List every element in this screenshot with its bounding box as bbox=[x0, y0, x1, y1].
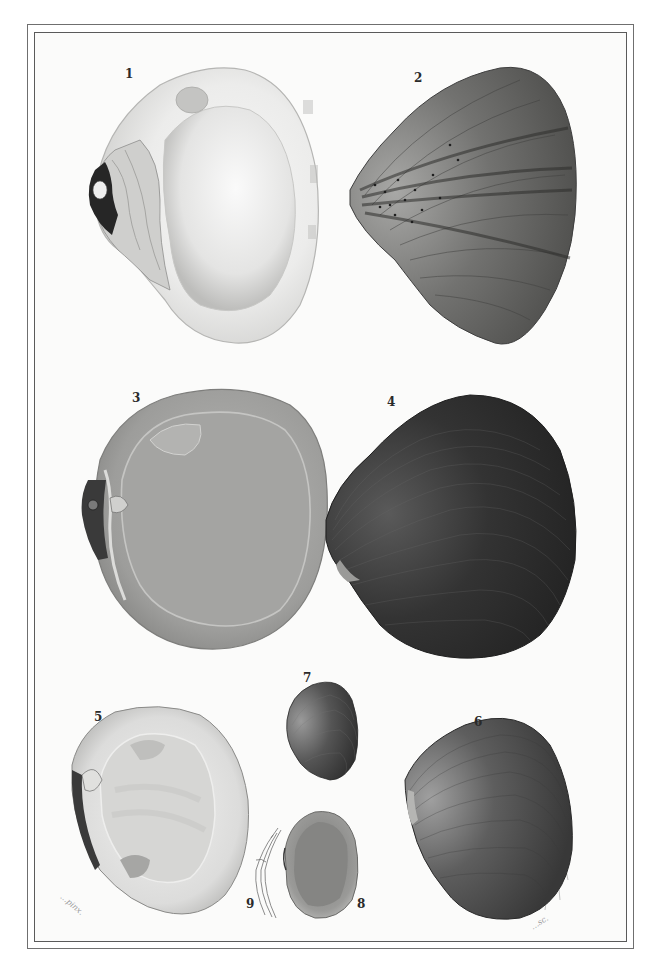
figure-label-8: 8 bbox=[357, 898, 365, 910]
shell-figure-3 bbox=[82, 389, 328, 649]
figure-label-2: 2 bbox=[414, 72, 422, 84]
shell-plate-illustration bbox=[0, 0, 663, 971]
shell-figure-4 bbox=[326, 395, 576, 658]
shell-figure-5 bbox=[72, 707, 249, 914]
figure-label-7: 7 bbox=[303, 672, 311, 684]
figure-label-5: 5 bbox=[94, 711, 102, 723]
figure-label-4: 4 bbox=[387, 396, 395, 408]
shell-figure-9 bbox=[256, 828, 281, 918]
shell-figure-6 bbox=[405, 718, 572, 919]
figure-label-3: 3 bbox=[132, 392, 140, 404]
shell-figure-1 bbox=[89, 68, 319, 343]
shell-figure-2 bbox=[350, 67, 576, 344]
figure-label-9: 9 bbox=[246, 898, 254, 910]
figure-label-6: 6 bbox=[474, 716, 482, 728]
figure-label-1: 1 bbox=[125, 68, 133, 80]
shell-figure-8 bbox=[284, 812, 358, 919]
shell-figure-7 bbox=[287, 682, 358, 780]
